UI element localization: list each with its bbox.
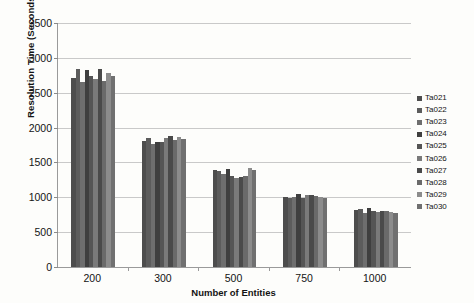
y-axis-tick-label: 1000 bbox=[14, 191, 52, 203]
legend-swatch-icon bbox=[417, 144, 422, 149]
legend-label: Ta023 bbox=[425, 118, 447, 126]
legend-item-Ta022[interactable]: Ta022 bbox=[417, 104, 473, 116]
legend-item-Ta029[interactable]: Ta029 bbox=[417, 189, 473, 201]
y-axis-tickmark bbox=[54, 58, 58, 59]
y-axis-tick-label: 0 bbox=[14, 261, 52, 273]
legend-swatch-icon bbox=[417, 156, 422, 161]
x-axis-tickmark bbox=[339, 267, 340, 271]
x-axis-tick-label: 750 bbox=[269, 272, 339, 284]
legend-swatch-icon bbox=[417, 132, 422, 137]
legend-label: Ta030 bbox=[425, 203, 447, 211]
x-axis-tick-label: 500 bbox=[199, 272, 269, 284]
bar-chart: Resolution Time (Seconds) 05001000150020… bbox=[0, 0, 474, 303]
legend-label: Ta021 bbox=[425, 94, 447, 102]
bar-Ta030-300[interactable] bbox=[181, 139, 185, 267]
y-axis-tickmark bbox=[54, 162, 58, 163]
y-axis-tick-label: 3000 bbox=[14, 52, 52, 64]
bar-group-500 bbox=[213, 23, 257, 267]
y-axis-tick-label: 2500 bbox=[14, 87, 52, 99]
x-axis-tick-label: 300 bbox=[128, 272, 198, 284]
legend-swatch-icon bbox=[417, 204, 422, 209]
y-axis-tick-label: 1500 bbox=[14, 156, 52, 168]
legend-item-Ta021[interactable]: Ta021 bbox=[417, 92, 473, 104]
legend-item-Ta026[interactable]: Ta026 bbox=[417, 152, 473, 164]
y-axis-tickmark bbox=[54, 93, 58, 94]
y-axis-tickmark bbox=[54, 232, 58, 233]
y-axis-tickmark bbox=[54, 267, 58, 268]
legend-label: Ta029 bbox=[425, 191, 447, 199]
legend-item-Ta025[interactable]: Ta025 bbox=[417, 140, 473, 152]
legend-swatch-icon bbox=[417, 180, 422, 185]
legend-item-Ta027[interactable]: Ta027 bbox=[417, 165, 473, 177]
legend-label: Ta027 bbox=[425, 167, 447, 175]
plot-area bbox=[57, 23, 411, 268]
legend-label: Ta025 bbox=[425, 142, 447, 150]
legend-swatch-icon bbox=[417, 96, 422, 101]
legend-item-Ta023[interactable]: Ta023 bbox=[417, 116, 473, 128]
x-axis-title: Number of Entities bbox=[57, 287, 410, 298]
y-axis-tickmark bbox=[54, 197, 58, 198]
legend-item-Ta030[interactable]: Ta030 bbox=[417, 201, 473, 213]
y-axis-tickmark bbox=[54, 23, 58, 24]
bar-Ta030-200[interactable] bbox=[111, 76, 115, 267]
y-axis-tick-label: 2000 bbox=[14, 122, 52, 134]
bar-group-750 bbox=[283, 23, 327, 267]
x-axis-tickmark bbox=[128, 267, 129, 271]
bar-Ta030-1000[interactable] bbox=[393, 213, 397, 267]
x-axis-tick-label: 200 bbox=[57, 272, 127, 284]
bar-series-layer bbox=[58, 23, 411, 267]
legend-label: Ta024 bbox=[425, 130, 447, 138]
legend-label: Ta022 bbox=[425, 106, 447, 114]
x-axis-tick-label: 1000 bbox=[340, 272, 410, 284]
legend-swatch-icon bbox=[417, 168, 422, 173]
legend-swatch-icon bbox=[417, 192, 422, 197]
y-axis-tick-label: 3500 bbox=[14, 17, 52, 29]
legend-item-Ta028[interactable]: Ta028 bbox=[417, 177, 473, 189]
legend-swatch-icon bbox=[417, 108, 422, 113]
bar-group-200 bbox=[71, 23, 115, 267]
y-axis-tick-labels: 0500100015002000250030003500 bbox=[14, 0, 52, 303]
bar-Ta030-750[interactable] bbox=[323, 198, 327, 267]
x-axis-tickmark bbox=[198, 267, 199, 271]
legend-label: Ta028 bbox=[425, 179, 447, 187]
legend-item-Ta024[interactable]: Ta024 bbox=[417, 128, 473, 140]
y-axis-tickmark bbox=[54, 128, 58, 129]
bar-group-300 bbox=[142, 23, 186, 267]
bar-group-1000 bbox=[354, 23, 398, 267]
x-axis-tickmark bbox=[269, 267, 270, 271]
bar-Ta030-500[interactable] bbox=[252, 170, 256, 267]
y-axis-tick-label: 500 bbox=[14, 226, 52, 238]
chart-legend: Ta021Ta022Ta023Ta024Ta025Ta026Ta027Ta028… bbox=[417, 92, 473, 213]
legend-label: Ta026 bbox=[425, 155, 447, 163]
legend-swatch-icon bbox=[417, 120, 422, 125]
